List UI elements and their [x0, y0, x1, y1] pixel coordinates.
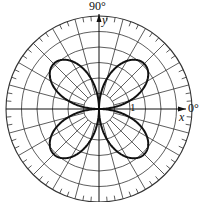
x-axis-label: x: [179, 110, 184, 125]
y-axis-arrow-icon: [97, 14, 102, 22]
angle-label-90: 90°: [89, 0, 106, 14]
y-axis-label: y: [102, 13, 107, 28]
polar-chart: [0, 0, 202, 202]
radial-tick-label: 1: [130, 101, 136, 113]
angle-label-0: 0°: [188, 101, 199, 116]
